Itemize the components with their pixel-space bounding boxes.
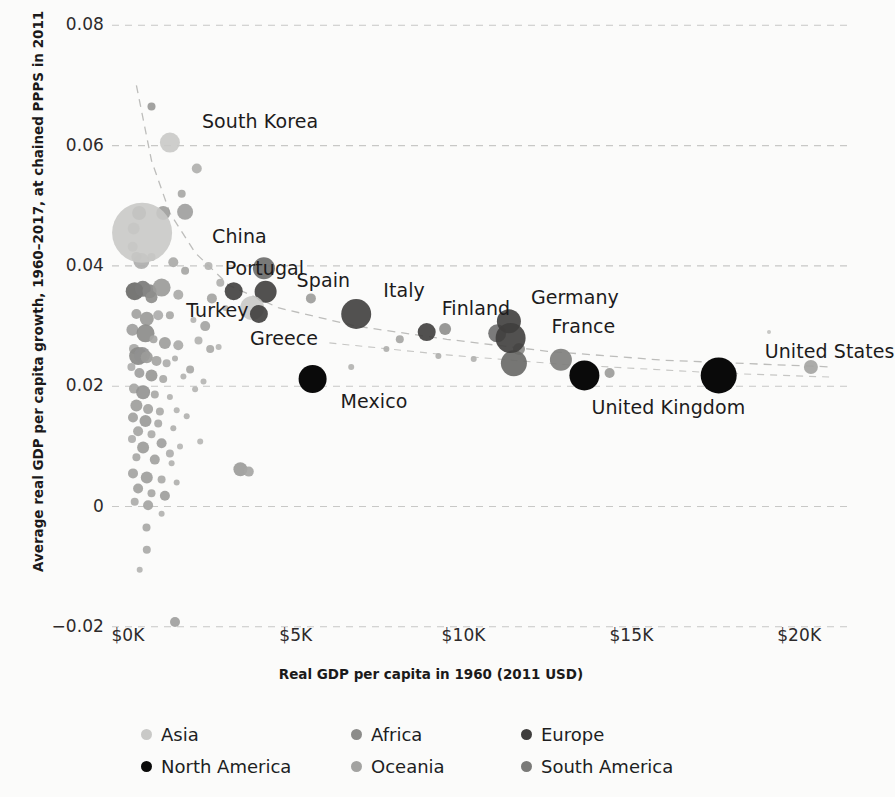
data-point[interactable] — [170, 425, 176, 431]
data-point[interactable] — [192, 386, 198, 392]
data-point[interactable] — [150, 335, 158, 343]
data-point[interactable] — [471, 356, 477, 362]
data-point[interactable] — [172, 356, 178, 362]
data-point[interactable] — [396, 335, 404, 343]
legend-item-europe[interactable]: Europe — [521, 724, 721, 745]
data-point[interactable] — [174, 407, 180, 413]
data-point[interactable] — [216, 279, 224, 287]
data-point-italy[interactable] — [341, 299, 371, 329]
data-point[interactable] — [177, 204, 193, 220]
legend-item-south-america[interactable]: South America — [521, 756, 721, 777]
y-tick-label: 0.04 — [30, 255, 104, 275]
data-point[interactable] — [180, 374, 186, 380]
data-point[interactable] — [206, 345, 214, 353]
data-point[interactable] — [152, 356, 162, 366]
data-point[interactable] — [146, 369, 158, 381]
data-point[interactable] — [168, 257, 178, 267]
data-point[interactable] — [160, 491, 170, 501]
data-point[interactable] — [128, 413, 138, 423]
data-point[interactable] — [141, 351, 153, 363]
data-point[interactable] — [166, 311, 174, 319]
data-point[interactable] — [184, 413, 190, 419]
data-point[interactable] — [174, 479, 180, 485]
data-point[interactable] — [128, 435, 136, 443]
data-point[interactable] — [131, 498, 139, 506]
data-point[interactable] — [348, 364, 354, 370]
legend-item-asia[interactable]: Asia — [141, 724, 351, 745]
legend-item-oceania[interactable]: Oceania — [351, 756, 521, 777]
data-point[interactable] — [383, 346, 389, 352]
data-point[interactable] — [205, 262, 213, 270]
data-point[interactable] — [605, 368, 615, 378]
data-point[interactable] — [159, 375, 167, 383]
legend-item-africa[interactable]: Africa — [351, 724, 521, 745]
legend-item-north-america[interactable]: North America — [141, 756, 351, 777]
data-point-united-states[interactable] — [701, 357, 737, 393]
data-point-portugal[interactable] — [225, 282, 243, 300]
data-point[interactable] — [143, 524, 151, 532]
data-point[interactable] — [167, 394, 173, 400]
data-point[interactable] — [127, 363, 135, 371]
data-point[interactable] — [130, 399, 142, 411]
data-point[interactable] — [148, 103, 156, 111]
data-point[interactable] — [181, 267, 189, 275]
data-point[interactable] — [163, 359, 171, 367]
data-point[interactable] — [137, 567, 143, 573]
data-point[interactable] — [157, 438, 167, 448]
data-point[interactable] — [153, 310, 163, 320]
data-point[interactable] — [197, 439, 203, 445]
data-point[interactable] — [136, 385, 150, 399]
data-point[interactable] — [173, 340, 183, 350]
data-point[interactable] — [439, 323, 451, 335]
data-point[interactable] — [216, 344, 222, 350]
data-point[interactable] — [143, 500, 153, 510]
data-point[interactable] — [141, 472, 153, 484]
y-axis-title: Average real GDP per capita growth, 1960… — [30, 11, 46, 572]
data-point[interactable] — [133, 426, 143, 436]
data-point[interactable] — [134, 368, 144, 378]
data-point[interactable] — [166, 450, 174, 458]
data-point[interactable] — [148, 489, 156, 497]
data-point[interactable] — [140, 312, 154, 326]
data-point[interactable] — [143, 546, 151, 554]
data-point[interactable] — [133, 484, 143, 494]
data-point[interactable] — [306, 293, 316, 303]
data-point[interactable] — [201, 378, 207, 384]
data-point[interactable] — [159, 511, 165, 517]
data-point[interactable] — [178, 190, 186, 198]
data-point[interactable] — [137, 442, 149, 454]
data-point[interactable] — [244, 467, 254, 477]
data-point-mexico[interactable] — [299, 365, 327, 393]
data-point[interactable] — [132, 453, 140, 461]
data-point-china[interactable] — [112, 203, 172, 263]
data-point[interactable] — [173, 290, 183, 300]
data-point[interactable] — [767, 330, 771, 334]
data-point[interactable] — [192, 164, 202, 174]
data-point[interactable] — [159, 337, 171, 349]
data-point[interactable] — [151, 391, 159, 399]
data-point-greece[interactable] — [250, 305, 268, 323]
data-point[interactable] — [156, 408, 164, 416]
data-point[interactable] — [200, 321, 210, 331]
data-point[interactable] — [186, 365, 194, 373]
data-point[interactable] — [154, 420, 162, 428]
data-point-finland[interactable] — [418, 323, 436, 341]
data-point[interactable] — [150, 455, 160, 465]
data-point[interactable] — [128, 468, 138, 478]
data-point[interactable] — [501, 350, 527, 376]
data-point[interactable] — [169, 460, 175, 466]
data-point[interactable] — [435, 353, 441, 359]
data-point[interactable] — [143, 404, 153, 414]
data-point[interactable] — [131, 309, 141, 319]
data-point[interactable] — [195, 337, 203, 345]
data-point[interactable] — [177, 443, 183, 449]
data-point[interactable] — [140, 415, 152, 427]
data-point[interactable] — [158, 475, 166, 483]
data-point-united-kingdom[interactable] — [569, 360, 599, 390]
data-point[interactable] — [146, 291, 158, 303]
data-point-france[interactable] — [496, 323, 526, 353]
data-point-south-korea[interactable] — [160, 133, 180, 153]
x-tick-label: $20K — [739, 625, 859, 645]
data-point[interactable] — [550, 349, 572, 371]
data-point[interactable] — [148, 430, 156, 438]
